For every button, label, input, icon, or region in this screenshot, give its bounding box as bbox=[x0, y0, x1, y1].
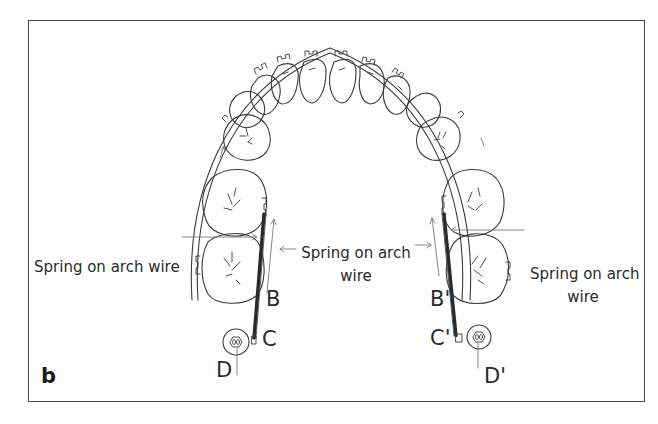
label-spring-center: Spring on arch wire bbox=[300, 244, 412, 285]
anchor-screw-right bbox=[467, 325, 491, 368]
point-label-d-prime: D' bbox=[484, 365, 506, 387]
point-label-d: D bbox=[216, 359, 232, 381]
label-spring-center-line1: Spring on arch bbox=[300, 244, 412, 262]
point-label-b: B bbox=[266, 288, 280, 310]
label-spring-right-line1: Spring on arch bbox=[530, 265, 636, 283]
label-spring-center-line2: wire bbox=[300, 267, 412, 285]
panel-label: b bbox=[41, 364, 56, 388]
point-label-c-prime: C' bbox=[430, 327, 450, 349]
premolars bbox=[222, 111, 464, 160]
dental-arch-diagram bbox=[0, 0, 658, 424]
label-spring-left: Spring on arch wire bbox=[34, 258, 180, 276]
point-label-c: C bbox=[262, 328, 277, 350]
anterior-teeth bbox=[230, 51, 441, 128]
label-spring-right: Spring on arch wire bbox=[530, 265, 636, 306]
point-label-b-prime: B' bbox=[430, 288, 450, 310]
label-spring-right-line2: wire bbox=[530, 288, 636, 306]
